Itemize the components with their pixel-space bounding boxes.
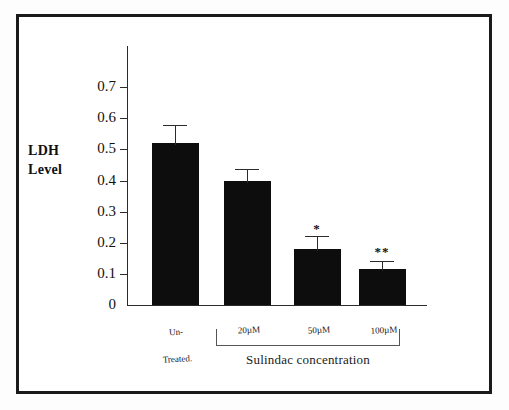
plot-area: 0 0.1 0.2 0.3 0.4 0.5 0.6 0.7: [0, 0, 509, 410]
y-tick-label-0: 0: [76, 297, 116, 312]
y-axis-line: [127, 46, 128, 306]
y-tick-0-6: 0.6: [70, 118, 128, 119]
errorbar-stem-untreated: [175, 125, 176, 145]
bar-50um: [294, 249, 341, 305]
y-tick-mark-0-3: [120, 212, 128, 213]
x-category-label-untreated: Un- Treated.: [143, 310, 210, 381]
y-tick-mark-0-4: [120, 181, 128, 182]
errorbar-stem-50um: [317, 236, 318, 251]
errorbar-cap-untreated: [163, 125, 187, 126]
y-tick-0-1: 0.1: [70, 274, 128, 275]
errorbar-cap-20um: [235, 169, 259, 170]
y-axis-title: LDH Level: [28, 142, 94, 180]
errorbar-stem-100um: [382, 261, 383, 271]
bar-untreated: [152, 143, 199, 305]
y-tick-mark-0-1: [120, 274, 128, 275]
bar-100um: [359, 269, 406, 305]
y-tick-label-0-3: 0.3: [76, 204, 116, 219]
x-category-label-untreated-line2: Treated.: [145, 351, 210, 368]
x-category-label-untreated-line1: Un-: [144, 324, 209, 341]
errorbar-cap-50um: [305, 236, 329, 237]
errorbar-cap-100um: [370, 261, 394, 262]
y-tick-mark-0-2: [120, 243, 128, 244]
y-tick-0-7: 0.7: [70, 87, 128, 88]
significance-marker-50um: *: [305, 222, 329, 235]
y-tick-label-0-2: 0.2: [76, 235, 116, 250]
y-axis-title-line1: LDH: [28, 142, 94, 161]
errorbar-stem-20um: [247, 169, 248, 183]
y-tick-mark-0-7: [120, 87, 128, 88]
y-tick-label-0-1: 0.1: [76, 266, 116, 281]
group-bracket: [216, 329, 400, 346]
y-tick-label-0-6: 0.6: [76, 110, 116, 125]
chart-figure: 0 0.1 0.2 0.3 0.4 0.5 0.6 0.7: [0, 0, 509, 410]
significance-marker-100um: **: [370, 245, 394, 258]
x-axis-title: Sulindac concentration: [216, 352, 400, 368]
bar-20um: [224, 181, 271, 305]
y-tick-label-0-7: 0.7: [76, 79, 116, 94]
x-axis-line: [127, 305, 427, 306]
y-tick-0-4: 0.4: [70, 181, 128, 182]
y-tick-mark-0-5: [120, 149, 128, 150]
y-tick-0-2: 0.2: [70, 243, 128, 244]
y-tick-mark-0-6: [120, 118, 128, 119]
y-tick-0: 0: [70, 305, 128, 306]
y-axis-title-line2: Level: [28, 161, 94, 180]
y-tick-0-3: 0.3: [70, 212, 128, 213]
